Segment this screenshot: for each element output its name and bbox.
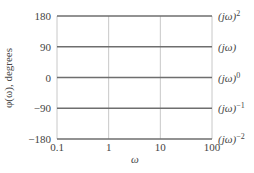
series-label: (jω)−2 xyxy=(218,132,245,146)
series-label: (jω) xyxy=(218,41,236,54)
series-lines xyxy=(57,16,212,139)
x-tick-label: 0.1 xyxy=(50,141,64,153)
series-label: (jω)2 xyxy=(218,9,240,23)
phase-plot: 180900−90−180 0.1110100 (jω)2(jω)(jω)0(j… xyxy=(0,0,254,173)
x-tick-label: 10 xyxy=(155,141,167,153)
y-tick-label: −90 xyxy=(34,102,52,114)
x-tick-labels: 0.1110100 xyxy=(50,141,221,153)
y-tick-label: 90 xyxy=(40,41,52,53)
y-tick-label: −180 xyxy=(28,133,51,145)
y-tick-label: 180 xyxy=(35,10,52,22)
series-label: (jω)0 xyxy=(218,71,240,85)
y-tick-label: 0 xyxy=(46,72,52,84)
y-axis-label: φ(ω), degrees xyxy=(2,48,15,108)
x-axis-label: ω xyxy=(131,153,139,165)
x-tick-label: 1 xyxy=(106,141,112,153)
series-labels: (jω)2(jω)(jω)0(jω)−1(jω)−2 xyxy=(218,9,245,146)
series-label: (jω)−1 xyxy=(218,101,245,115)
y-tick-labels: 180900−90−180 xyxy=(28,10,51,145)
